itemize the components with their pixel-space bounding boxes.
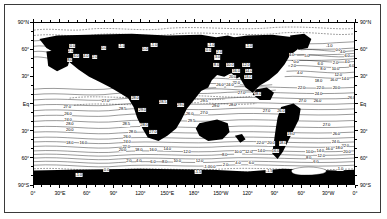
x-tick-major-top: [113, 19, 114, 22]
contour-label: 10.0: [226, 63, 234, 67]
y-tick-minor-left: [31, 112, 33, 113]
contour-label: 4.0: [289, 53, 295, 57]
contour-label: -1.0: [118, 44, 125, 48]
contour-label: 27.0: [102, 99, 110, 103]
y-tick-minor-right: [355, 148, 357, 149]
contour-label: 27.0: [323, 123, 331, 127]
y-axis-label-left-6: 90°S: [2, 182, 29, 188]
contour-label: 5.0: [304, 54, 310, 58]
x-tick-major-top: [274, 19, 275, 22]
y-axis-label-right-0: 90°N: [360, 19, 371, 25]
contour-label: 27.0: [149, 130, 157, 134]
contour-label: 28.5: [119, 107, 127, 111]
y-tick-minor-left: [31, 58, 33, 59]
contour-label: 6.0: [249, 161, 255, 165]
contour-label: 26.0: [216, 83, 224, 87]
y-tick-major-left: [30, 22, 33, 23]
x-tick-minor-top: [211, 20, 212, 22]
y-tick-major-right: [355, 49, 358, 50]
contour-label: 6.0: [73, 54, 79, 58]
x-axis-label-2: 60°: [83, 190, 91, 196]
contour-label: 28.0: [131, 96, 139, 100]
x-tick-major: [140, 185, 141, 188]
contour-label: 0.0: [104, 168, 110, 172]
x-axis-label-6: 180°: [189, 190, 199, 196]
contour-label: -1.0: [203, 165, 210, 169]
x-axis-label-1: 30°E: [54, 190, 65, 196]
x-tick-minor: [131, 185, 132, 187]
x-tick-minor: [95, 185, 96, 187]
contour-label: 20.0: [66, 128, 74, 132]
contour-label: 12.0: [317, 154, 325, 158]
contour-label: 14.0: [341, 77, 349, 81]
x-tick-minor-top: [95, 20, 96, 22]
contour-label: 28.0: [140, 123, 148, 127]
contour-label: 28.0: [254, 92, 262, 96]
contour-label: 4.0: [297, 71, 303, 75]
x-tick-minor-top: [202, 20, 203, 22]
contour-label: 29.0: [138, 108, 146, 112]
contour-label: 22.0: [256, 140, 264, 144]
x-tick-minor-top: [77, 20, 78, 22]
y-tick-minor-right: [355, 58, 357, 59]
contour-label: 6.0: [313, 160, 319, 164]
x-tick-minor-top: [337, 20, 338, 22]
contour-label: 29.0: [212, 104, 220, 108]
y-tick-minor-left: [31, 175, 33, 176]
y-tick-minor-left: [31, 121, 33, 122]
y-tick-major-right: [355, 22, 358, 23]
x-tick-minor-top: [185, 20, 186, 22]
x-tick-minor: [319, 185, 320, 187]
contour-label: 2.0: [291, 64, 297, 68]
contour-label: 10.0: [234, 150, 242, 154]
x-tick-minor-top: [229, 20, 230, 22]
y-tick-major-left: [30, 130, 33, 131]
x-tick-minor: [122, 185, 123, 187]
x-tick-minor-top: [50, 20, 51, 22]
x-tick-minor: [50, 185, 51, 187]
contour-label: 24.0: [226, 83, 234, 87]
y-tick-major-right: [355, 76, 358, 77]
contour-label: 8.0: [306, 156, 312, 160]
y-axis-label-right-6: 90°S: [360, 182, 371, 188]
y-tick-minor-left: [31, 85, 33, 86]
y-tick-major-right: [355, 103, 358, 104]
x-axis-label-4: 120°: [135, 190, 145, 196]
contour-label: 28.5: [159, 100, 167, 104]
contour-label: 18.0: [279, 141, 287, 145]
contour-label: 8.0: [162, 160, 168, 164]
y-axis-label-left-1: 60°: [2, 46, 29, 52]
y-tick-minor-left: [31, 148, 33, 149]
x-tick-major: [274, 185, 275, 188]
y-tick-minor-right: [355, 40, 357, 41]
x-axis-label-11: 30°W: [322, 190, 334, 196]
contour-label: 2.0: [223, 163, 229, 167]
x-tick-minor: [346, 185, 347, 187]
contour-label: 22.0: [298, 86, 306, 90]
y-axis-label-right-4: 30°: [360, 128, 368, 134]
x-tick-minor: [185, 185, 186, 187]
contour-label: -1.0: [326, 44, 333, 48]
x-tick-minor: [265, 185, 266, 187]
contour-label: 20.0: [343, 150, 351, 154]
contour-label: 28.0: [229, 102, 237, 106]
x-tick-minor-top: [104, 20, 105, 22]
contour-label: 14.0: [257, 149, 265, 153]
contour-label: 28.5: [122, 122, 130, 126]
x-tick-major: [220, 185, 221, 188]
contour-label: 16.0: [79, 140, 87, 144]
x-tick-minor-top: [122, 20, 123, 22]
contour-label: 8.0: [67, 58, 73, 62]
x-tick-minor-top: [149, 20, 150, 22]
y-tick-minor-right: [355, 139, 357, 140]
x-tick-minor: [176, 185, 177, 187]
contour-label: 4.0: [83, 54, 89, 58]
x-tick-minor-top: [41, 20, 42, 22]
y-axis-label-left-2: 30°: [2, 73, 29, 79]
contour-label: -1.5: [194, 169, 201, 173]
contour-label: 27.0: [63, 105, 71, 109]
x-tick-major-top: [86, 19, 87, 22]
contour-label: 18.0: [315, 79, 323, 83]
x-tick-minor-top: [131, 20, 132, 22]
contour-label: 26.0: [348, 96, 355, 100]
